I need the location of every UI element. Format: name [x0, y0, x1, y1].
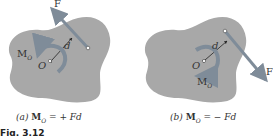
point-o-a: [48, 59, 51, 62]
point-label-b: O: [192, 60, 200, 71]
force-label-b: F: [266, 66, 273, 77]
force-point-b: [223, 29, 227, 33]
figure-label: Fig. 3.12: [0, 128, 44, 136]
caption-a: (a) MO = + Fd: [16, 112, 82, 124]
moment-label-a: MO: [17, 48, 32, 61]
distance-label-a: d: [64, 40, 70, 51]
force-label-a: F: [54, 0, 61, 9]
caption-b: (b) MO = − Fd: [170, 112, 236, 124]
distance-label-b: d: [212, 40, 218, 51]
panel-b: [145, 17, 266, 102]
point-label-a: O: [38, 60, 46, 71]
point-o-b: [202, 59, 205, 62]
force-point-a: [86, 46, 90, 50]
moment-label-b: MO: [197, 76, 212, 89]
